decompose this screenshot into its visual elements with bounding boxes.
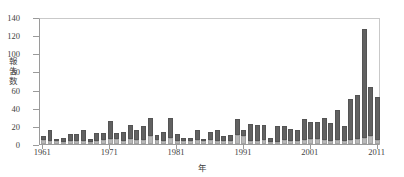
x-axis-tick-mark: [109, 145, 110, 149]
bar-group: [101, 133, 106, 144]
bar-segment-lower: [375, 140, 380, 144]
bar-segment-upper: [275, 126, 280, 142]
bar-segment-lower: [141, 140, 146, 144]
bar-segment-lower: [114, 139, 119, 144]
x-axis-tick-mark: [42, 145, 43, 149]
bar-segment-upper: [168, 118, 173, 138]
bar-segment-lower: [128, 139, 133, 144]
bar-group: [268, 138, 273, 144]
y-axis-tick-label: 120: [0, 32, 20, 41]
bar-segment-upper: [282, 126, 287, 141]
bar-segment-lower: [181, 141, 186, 144]
bar-segment-lower: [175, 141, 180, 144]
bar-segment-lower: [195, 140, 200, 144]
bar-group: [94, 133, 99, 144]
bar-group: [141, 126, 146, 144]
x-axis-tick-mark: [310, 145, 311, 149]
bar-group: [81, 130, 86, 145]
bar-segment-lower: [368, 136, 373, 144]
bar-segment-lower: [155, 140, 160, 144]
bar-segment-upper: [74, 134, 79, 141]
bar-segment-lower: [215, 141, 220, 144]
bar-segment-lower: [262, 140, 267, 144]
bar-group: [368, 87, 373, 144]
bar-segment-upper: [328, 123, 333, 141]
bar-segment-upper: [368, 87, 373, 136]
bar-group: [275, 126, 280, 144]
bar-segment-lower: [268, 142, 273, 144]
bar-group: [362, 29, 367, 144]
y-axis-tick-label: 140: [0, 14, 20, 23]
bar-segment-upper: [195, 130, 200, 141]
bar-group: [54, 139, 59, 144]
bar-segment-lower: [201, 141, 206, 144]
bar-segment-upper: [355, 95, 360, 139]
bar-segment-upper: [48, 130, 53, 142]
bar-group: [201, 139, 206, 144]
bar-segment-lower: [288, 141, 293, 144]
bar-group: [188, 138, 193, 144]
bar-group: [235, 119, 240, 144]
x-axis-tick-label: 1971: [101, 148, 118, 157]
bar-segment-upper: [375, 97, 380, 141]
bar-segment-lower: [61, 142, 66, 144]
bar-segment-lower: [248, 141, 253, 144]
x-axis-tick-label: 2011: [368, 148, 385, 157]
bar-segment-lower: [41, 140, 46, 144]
bar-segment-upper: [121, 132, 126, 141]
bar-segment-lower: [348, 140, 353, 144]
bar-group: [282, 126, 287, 144]
bar-group: [48, 130, 53, 145]
bar-segment-upper: [255, 125, 260, 141]
bar-group: [241, 130, 246, 144]
bar-group: [255, 125, 260, 144]
bar-segment-upper: [322, 118, 327, 141]
bar-group: [262, 125, 267, 144]
y-axis-tick-label: 40: [0, 104, 20, 113]
bar-group: [195, 130, 200, 145]
bar-segment-upper: [308, 122, 313, 138]
bar-group: [181, 138, 186, 144]
bar-segment-upper: [295, 130, 300, 142]
bar-segment-upper: [148, 118, 153, 136]
bar-segment-lower: [335, 140, 340, 144]
y-axis-tick-label: 80: [0, 68, 20, 77]
bar-segment-lower: [81, 141, 86, 144]
bar-group: [302, 119, 307, 144]
x-axis-label: 年: [0, 161, 404, 173]
bar-group: [155, 135, 160, 144]
bar-group: [375, 97, 380, 144]
bar-segment-upper: [68, 134, 73, 141]
bar-segment-lower: [108, 139, 113, 144]
y-axis-tick-label: 0: [0, 141, 20, 150]
bar-segment-lower: [315, 139, 320, 144]
bar-segment-upper: [262, 125, 267, 140]
bar-segment-upper: [248, 124, 253, 141]
bar-segment-lower: [134, 140, 139, 144]
bar-segment-lower: [94, 141, 99, 144]
x-axis-tick-mark: [377, 145, 378, 149]
y-axis-tick-label: 20: [0, 122, 20, 131]
bar-segment-lower: [328, 141, 333, 144]
bar-group: [221, 136, 226, 144]
bar-segment-lower: [342, 141, 347, 144]
bar-group: [335, 110, 340, 144]
x-axis-tick-mark: [243, 145, 244, 149]
bar-segment-lower: [121, 141, 126, 144]
bar-segment-upper: [335, 110, 340, 140]
bar-segment-lower: [148, 136, 153, 144]
bar-group: [322, 118, 327, 144]
bar-group: [295, 130, 300, 145]
bar-segment-lower: [255, 141, 260, 144]
bar-segment-lower: [208, 140, 213, 144]
bar-segment-upper: [288, 129, 293, 142]
bar-group: [315, 122, 320, 144]
bar-group: [342, 126, 347, 144]
bar-segment-upper: [348, 99, 353, 141]
bar-segment-upper: [362, 29, 367, 138]
bars-layer: [40, 19, 379, 144]
bar-group: [128, 125, 133, 144]
plot-area: [39, 18, 380, 145]
bar-segment-lower: [228, 141, 233, 144]
bar-segment-lower: [74, 141, 79, 144]
